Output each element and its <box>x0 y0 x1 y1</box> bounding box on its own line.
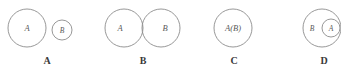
option-c-set-label-ab: A(B) <box>224 23 241 33</box>
option-b-set-label-a: A <box>116 23 123 33</box>
option-d-set-label-a: A <box>328 24 334 33</box>
option-d-label: D <box>320 55 327 66</box>
option-b-circle-b <box>142 9 180 47</box>
option-d-set-label-b: B <box>310 24 315 33</box>
option-b-set-label-b: B <box>162 23 167 33</box>
option-a-group: A B A <box>8 9 72 66</box>
option-a-set-label-b: B <box>60 26 65 35</box>
venn-diagram-canvas: A B A A B B A(B) C B A D <box>0 0 341 77</box>
option-b-label: B <box>140 55 147 66</box>
option-a-set-label-a: A <box>23 23 30 33</box>
venn-diagram-options-figure: A B A A B B A(B) C B A D <box>0 0 341 77</box>
option-a-label: A <box>43 55 51 66</box>
option-b-circle-a <box>105 9 143 47</box>
option-c-group: A(B) C <box>214 9 252 66</box>
option-b-group: A B B <box>105 9 180 66</box>
option-c-label: C <box>230 55 237 66</box>
option-d-group: B A D <box>303 9 341 66</box>
